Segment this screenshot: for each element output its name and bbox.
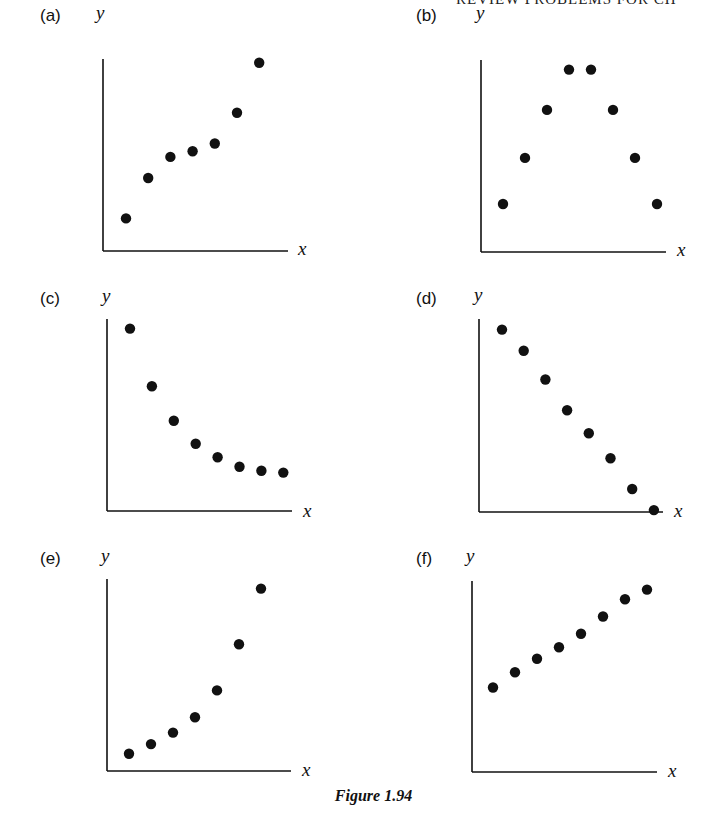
y-axis-label: y (101, 545, 109, 567)
scatter-panel-a (103, 58, 288, 251)
data-point (586, 64, 596, 74)
data-point (187, 146, 197, 156)
data-point (210, 138, 220, 148)
scatter-panel-b (481, 60, 666, 252)
data-point (542, 105, 552, 115)
scatter-panel-d (479, 319, 663, 515)
y-axis-label: y (474, 284, 482, 306)
data-point (605, 453, 615, 463)
data-point (520, 153, 530, 163)
x-axis-label: x (302, 759, 310, 781)
data-point (598, 611, 608, 621)
data-point (498, 199, 508, 209)
data-point (146, 739, 156, 749)
data-point (540, 374, 550, 384)
figure-caption-text: Figure 1.94 (335, 787, 412, 804)
y-axis-label: y (476, 2, 484, 24)
data-point (278, 467, 288, 477)
data-point (147, 381, 157, 391)
panel-label-d: (d) (416, 289, 437, 309)
data-point (190, 712, 200, 722)
data-point (584, 428, 594, 438)
data-point (576, 629, 586, 639)
data-point (620, 594, 630, 604)
panel-label-a: (a) (40, 6, 61, 26)
data-point (532, 654, 542, 664)
panel-label-b: (b) (416, 6, 437, 26)
data-point (143, 173, 153, 183)
data-point (254, 58, 264, 68)
data-point (497, 324, 507, 334)
y-axis-label: y (466, 545, 474, 567)
data-point (649, 505, 659, 515)
data-point (212, 452, 222, 462)
data-point (519, 346, 529, 356)
data-point (168, 727, 178, 737)
data-point (652, 199, 662, 209)
x-axis-label: x (668, 760, 676, 782)
data-point (627, 484, 637, 494)
data-point (169, 416, 179, 426)
data-point (121, 213, 131, 223)
data-point (564, 64, 574, 74)
x-axis-label: x (677, 239, 685, 261)
panel-label-e: (e) (40, 549, 61, 569)
y-axis-label: y (102, 285, 110, 307)
data-point (642, 584, 652, 594)
data-point (165, 152, 175, 162)
scatter-plots-canvas (0, 0, 727, 837)
x-axis-label: x (303, 500, 311, 522)
figure-caption: Figure 1.94 (0, 787, 727, 805)
data-point (234, 462, 244, 472)
data-point (191, 439, 201, 449)
data-point (554, 642, 564, 652)
data-point (256, 466, 266, 476)
scatter-panel-e (107, 579, 291, 771)
panel-label-f: (f) (416, 549, 432, 569)
scatter-panel-f (472, 581, 657, 772)
data-point (212, 685, 222, 695)
data-point (256, 583, 266, 593)
data-point (562, 405, 572, 415)
data-point (510, 667, 520, 677)
data-point (608, 105, 618, 115)
data-point (232, 108, 242, 118)
x-axis-label: x (298, 238, 306, 260)
data-point (124, 749, 134, 759)
data-point (488, 682, 498, 692)
panel-label-c: (c) (40, 289, 60, 309)
y-axis-label: y (96, 2, 104, 24)
data-point (630, 153, 640, 163)
data-point (234, 639, 244, 649)
x-axis-label: x (674, 500, 682, 522)
scatter-panel-c (107, 319, 292, 511)
data-point (125, 323, 135, 333)
